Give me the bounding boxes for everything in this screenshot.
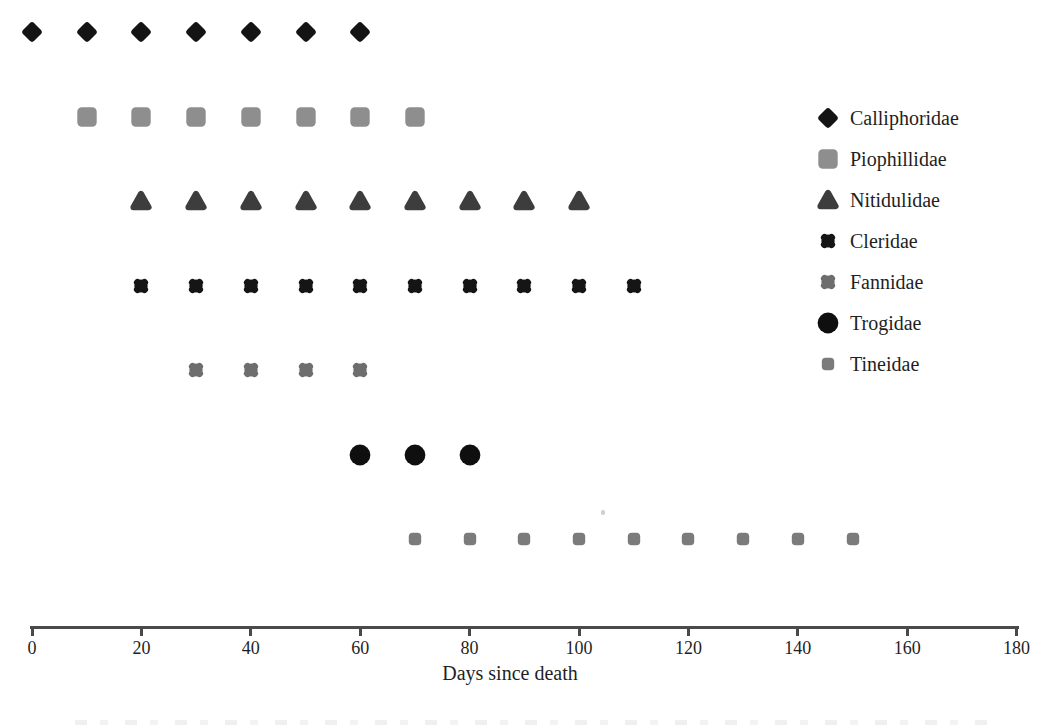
x-axis-tick-label-100: 100: [557, 638, 601, 659]
data-point-calliphoridae-day-30: [182, 18, 210, 46]
legend-label: Cleridae: [850, 230, 918, 253]
x-axis-tick-label-120: 120: [666, 638, 710, 659]
legend-item-nitidulidae: Nitidulidae: [814, 186, 940, 214]
legend-label: Nitidulidae: [850, 189, 940, 212]
legend-label: Tineidae: [850, 353, 919, 376]
x-axis-tick-20: [140, 626, 143, 636]
x-axis-title: Days since death: [400, 662, 620, 685]
data-point-cleridae-day-30: [182, 272, 210, 300]
data-point-cleridae-day-90: [510, 272, 538, 300]
data-point-tineidae-day-110: [620, 525, 648, 553]
legend-item-cleridae: Cleridae: [814, 227, 918, 255]
data-point-trogidae-day-70: [401, 441, 429, 469]
x-axis-tick-0: [31, 626, 34, 636]
dot-marker-icon: [814, 350, 842, 378]
data-point-cleridae-day-110: [620, 272, 648, 300]
x-axis-tick-label-40: 40: [229, 638, 273, 659]
data-point-fannidae-day-40: [237, 356, 265, 384]
data-point-nitidulidae-day-50: [292, 187, 320, 215]
xstar-marker-icon: [814, 227, 842, 255]
x-axis-tick-100: [578, 626, 581, 636]
x-axis-tick-60: [359, 626, 362, 636]
data-point-fannidae-day-60: [346, 356, 374, 384]
data-point-piophillidae-day-60: [346, 103, 374, 131]
legend-label: Trogidae: [850, 312, 921, 335]
x-axis-tick-80: [468, 626, 471, 636]
data-point-calliphoridae-day-60: [346, 18, 374, 46]
x-axis-tick-label-160: 160: [885, 638, 929, 659]
x-axis-tick-label-0: 0: [10, 638, 54, 659]
data-point-cleridae-day-70: [401, 272, 429, 300]
data-point-calliphoridae-day-20: [127, 18, 155, 46]
data-point-cleridae-day-20: [127, 272, 155, 300]
legend-item-fannidae: Fannidae: [814, 268, 923, 296]
data-point-fannidae-day-50: [292, 356, 320, 384]
x-axis-tick-40: [249, 626, 252, 636]
x-axis-tick-label-140: 140: [776, 638, 820, 659]
data-point-calliphoridae-day-50: [292, 18, 320, 46]
data-point-piophillidae-day-50: [292, 103, 320, 131]
data-point-calliphoridae-day-0: [18, 18, 46, 46]
x-axis-tick-label-20: 20: [119, 638, 163, 659]
data-point-nitidulidae-day-70: [401, 187, 429, 215]
data-point-tineidae-day-130: [729, 525, 757, 553]
x-axis-tick-label-180: 180: [995, 638, 1039, 659]
diamond-marker-icon: [814, 104, 842, 132]
x-axis-line: [30, 626, 1019, 629]
data-point-cleridae-day-60: [346, 272, 374, 300]
legend-item-calliphoridae: Calliphoridae: [814, 104, 959, 132]
data-point-tineidae-day-90: [510, 525, 538, 553]
data-point-piophillidae-day-20: [127, 103, 155, 131]
data-point-nitidulidae-day-40: [237, 187, 265, 215]
data-point-nitidulidae-day-30: [182, 187, 210, 215]
insect-succession-figure: CalliphoridaePiophillidaeNitidulidaeCler…: [0, 0, 1059, 727]
data-point-fannidae-day-30: [182, 356, 210, 384]
data-point-cleridae-day-80: [456, 272, 484, 300]
data-point-trogidae-day-80: [456, 441, 484, 469]
data-point-piophillidae-day-10: [73, 103, 101, 131]
data-point-tineidae-day-80: [456, 525, 484, 553]
data-point-nitidulidae-day-20: [127, 187, 155, 215]
data-point-trogidae-day-60: [346, 441, 374, 469]
data-point-piophillidae-day-70: [401, 103, 429, 131]
circle-marker-icon: [814, 309, 842, 337]
data-point-cleridae-day-50: [292, 272, 320, 300]
xstar-marker-icon: [814, 268, 842, 296]
x-axis-tick-140: [796, 626, 799, 636]
data-point-nitidulidae-day-100: [565, 187, 593, 215]
data-point-nitidulidae-day-60: [346, 187, 374, 215]
data-point-tineidae-day-70: [401, 525, 429, 553]
legend-label: Calliphoridae: [850, 107, 959, 130]
data-point-piophillidae-day-30: [182, 103, 210, 131]
legend-item-piophillidae: Piophillidae: [814, 145, 947, 173]
legend-item-trogidae: Trogidae: [814, 309, 921, 337]
x-axis-tick-label-60: 60: [338, 638, 382, 659]
data-point-calliphoridae-day-10: [73, 18, 101, 46]
cropped-caption-artifact: [75, 720, 990, 725]
data-point-nitidulidae-day-90: [510, 187, 538, 215]
data-point-tineidae-day-100: [565, 525, 593, 553]
data-point-tineidae-day-120: [674, 525, 702, 553]
legend-label: Piophillidae: [850, 148, 947, 171]
data-point-calliphoridae-day-40: [237, 18, 265, 46]
data-point-tineidae-day-150: [839, 525, 867, 553]
triangle-marker-icon: [814, 186, 842, 214]
data-point-piophillidae-day-40: [237, 103, 265, 131]
legend-label: Fannidae: [850, 271, 923, 294]
data-point-tineidae-day-140: [784, 525, 812, 553]
x-axis-tick-label-80: 80: [448, 638, 492, 659]
data-point-nitidulidae-day-80: [456, 187, 484, 215]
x-axis-tick-160: [906, 626, 909, 636]
x-axis-tick-180: [1015, 626, 1018, 636]
square-marker-icon: [814, 145, 842, 173]
data-point-cleridae-day-100: [565, 272, 593, 300]
data-point-cleridae-day-40: [237, 272, 265, 300]
x-axis-tick-120: [687, 626, 690, 636]
legend-item-tineidae: Tineidae: [814, 350, 919, 378]
speck-artifact: [601, 510, 605, 515]
